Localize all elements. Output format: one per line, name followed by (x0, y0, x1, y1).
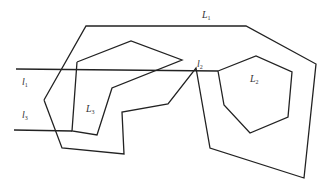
label-l2-sub: 2 (200, 64, 203, 70)
label-l2: l2 (197, 59, 203, 70)
polygon-L2 (218, 56, 292, 133)
label-l3: l3 (22, 110, 28, 121)
label-L3-sub: 3 (92, 109, 95, 115)
polygon-L3 (72, 41, 182, 135)
label-l1-sub: 1 (25, 82, 28, 88)
label-L1-sub: 1 (208, 15, 211, 21)
label-L2-sub: 2 (256, 79, 259, 85)
label-L1: L1 (202, 10, 211, 21)
label-l3-sub: 3 (25, 115, 28, 121)
line-l3 (14, 130, 72, 131)
diagram-canvas (0, 0, 328, 190)
label-L2: L2 (250, 74, 259, 85)
label-l1: l1 (22, 77, 28, 88)
label-L3: L3 (86, 104, 95, 115)
polygon-L1 (44, 26, 316, 178)
line-l1 (16, 69, 218, 71)
